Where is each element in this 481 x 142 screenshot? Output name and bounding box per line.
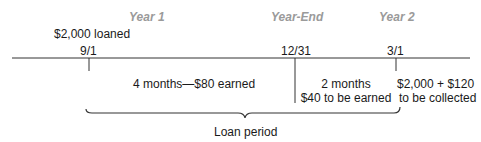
- collect-line-2: to be collected: [399, 91, 476, 105]
- date-start: 9/1: [80, 44, 97, 58]
- date-end: 3/1: [387, 44, 404, 58]
- loan-amount-label: $2,000 loaned: [54, 27, 130, 41]
- earned-segment-label: 4 months—$80 earned: [133, 77, 255, 91]
- header-year-end: Year-End: [271, 10, 323, 24]
- to-earn-line-1: 2 months: [300, 77, 392, 91]
- header-year-1: Year 1: [129, 10, 165, 24]
- to-earn-line-2: $40 to be earned: [300, 91, 392, 105]
- header-year-2: Year 2: [379, 10, 415, 24]
- collect-line-1: $2,000 + $120: [397, 77, 474, 91]
- loan-period-label: Loan period: [214, 125, 277, 139]
- date-year-end: 12/31: [281, 44, 311, 58]
- loan-period-brace: [86, 107, 400, 118]
